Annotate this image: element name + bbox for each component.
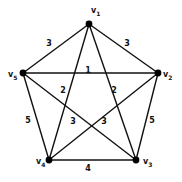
edge-v5-v3: [23, 73, 136, 160]
edge-v1-v5: [23, 24, 89, 73]
vertex-v5: [20, 70, 27, 77]
edge-v1-v2: [89, 24, 158, 73]
graph-diagram: 3312233554 v1v2v3v4v5: [0, 0, 182, 182]
vertex-label-v1: v1: [91, 6, 100, 17]
vertex-label-v3: v3: [143, 157, 152, 168]
vertex-label-v4: v4: [36, 157, 45, 168]
edge-weight-label: 2: [60, 86, 66, 95]
edge-weight-label: 2: [111, 86, 117, 95]
vertex-labels-layer: v1v2v3v4v5: [8, 6, 172, 168]
vertex-v1: [86, 21, 93, 28]
edge-weight-label: 3: [70, 117, 76, 126]
edge-weight-label: 3: [46, 39, 52, 48]
vertex-label-v5: v5: [8, 70, 17, 81]
vertex-v4: [46, 157, 53, 164]
edges-layer: [23, 24, 158, 160]
edge-weight-label: 3: [124, 39, 130, 48]
vertex-label-v2: v2: [163, 70, 172, 81]
edge-weight-label: 1: [85, 66, 91, 75]
edge-weight-label: 5: [25, 116, 31, 125]
edge-weight-label: 4: [85, 164, 91, 173]
edge-weight-label: 5: [149, 116, 155, 125]
edge-weights-layer: 3312233554: [25, 39, 155, 173]
edge-v1-v4: [49, 24, 89, 160]
vertex-v2: [155, 70, 162, 77]
edge-weight-label: 3: [101, 117, 107, 126]
vertex-v3: [133, 157, 140, 164]
